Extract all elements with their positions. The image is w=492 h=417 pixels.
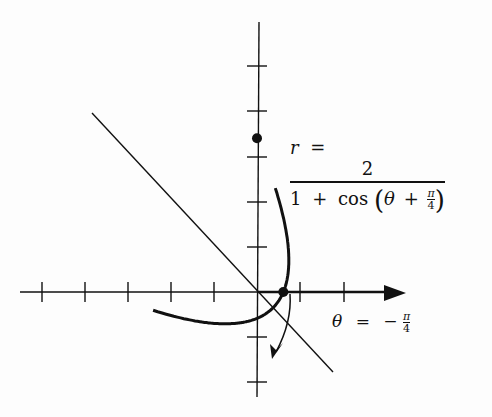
den-plus2: + (404, 188, 419, 209)
angle-pi-over-4: π 4 (403, 311, 410, 334)
curve-equation: r = 2 1 + cos (θ + π 4 ) (290, 137, 492, 215)
y-axis (257, 22, 259, 397)
y-intercept-point (252, 133, 262, 143)
den-close-paren: ) (435, 185, 445, 215)
x-axis-arrow-icon (384, 285, 406, 301)
four: 4 (403, 323, 410, 334)
den-plus: + (312, 188, 327, 209)
den-theta: θ (384, 188, 395, 209)
figure-canvas: r = 2 1 + cos (θ + π 4 ) θ = − π (0, 0, 492, 417)
den-open-paren: ( (374, 185, 384, 215)
den-cos: cos (338, 188, 368, 209)
angle-equals: = (356, 311, 370, 331)
pi-symbol: π (427, 188, 434, 199)
angle-label: θ = − π 4 (332, 311, 410, 334)
eq-equals: = (310, 137, 325, 158)
eq-fraction: 2 1 + cos (θ + π 4 ) (290, 158, 445, 215)
den-one: 1 (290, 188, 301, 209)
eq-denominator: 1 + cos (θ + π 4 ) (290, 183, 445, 215)
eq-lhs: r (290, 137, 299, 158)
angle-minus: − (383, 311, 397, 331)
four: 4 (428, 200, 435, 211)
angle-arrow-icon (270, 343, 283, 359)
eq-numerator: 2 (360, 158, 375, 181)
angle-theta: θ (332, 311, 342, 331)
x-intercept-point (278, 287, 288, 297)
pi-symbol: π (403, 311, 410, 322)
den-pi-over-4: π 4 (427, 188, 434, 211)
